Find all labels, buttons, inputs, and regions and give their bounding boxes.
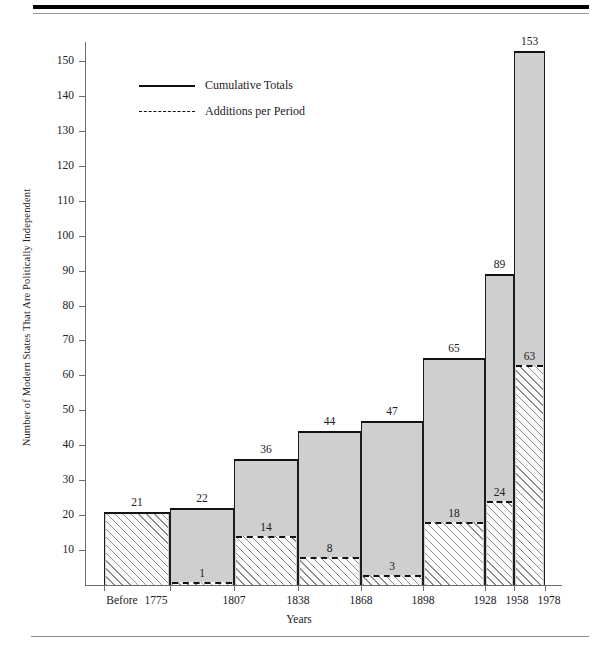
top-rule-thick <box>33 5 589 9</box>
y-tick-label-120: 120 <box>41 160 74 172</box>
y-tick-50 <box>79 410 86 411</box>
bar-addition-5 <box>425 522 484 585</box>
x-axis-title: Years <box>0 613 598 625</box>
x-tick-label-1978: 1978 <box>509 594 589 607</box>
y-tick-20 <box>79 515 86 516</box>
y-tick-label-text: 50 <box>44 404 74 416</box>
y-tick-label-20: 20 <box>41 509 74 521</box>
y-tick-90 <box>79 271 86 272</box>
x-tick-7 <box>514 585 515 591</box>
y-tick-label-text: 20 <box>44 509 74 521</box>
x-tick-0 <box>104 585 105 591</box>
y-tick-label-text: 130 <box>44 125 74 137</box>
y-tick-label-60: 60 <box>41 369 74 381</box>
legend-label: Additions per Period <box>205 104 305 119</box>
y-tick-110 <box>79 201 86 202</box>
y-tick-60 <box>79 375 86 376</box>
x-tick-2 <box>234 585 235 591</box>
addition-dashed-line-1 <box>172 582 233 584</box>
y-tick-70 <box>79 340 86 341</box>
y-tick-label-40: 40 <box>41 439 74 451</box>
y-tick-label-text: 90 <box>44 265 74 277</box>
addition-dashed-line-4 <box>363 575 422 577</box>
y-tick-label-80: 80 <box>41 300 74 312</box>
bar-addition-7 <box>516 365 544 585</box>
legend-swatch-solid-icon <box>139 85 195 87</box>
addition-dashed-line-6 <box>487 501 513 503</box>
x-tick-3 <box>298 585 299 591</box>
y-tick-80 <box>79 306 86 307</box>
bottom-rule <box>31 636 589 637</box>
addition-label-7: 63 <box>494 350 565 362</box>
y-tick-30 <box>79 480 86 481</box>
y-tick-label-text: 70 <box>44 334 74 346</box>
y-tick-130 <box>79 131 86 132</box>
y-tick-label-text: 30 <box>44 474 74 486</box>
legend-label: Cumulative Totals <box>205 78 293 93</box>
y-tick-label-150: 150 <box>41 55 74 67</box>
x-tick-4 <box>361 585 362 591</box>
legend-item-solid: Cumulative Totals <box>139 76 339 102</box>
y-tick-120 <box>79 166 86 167</box>
y-tick-label-10: 10 <box>41 544 74 556</box>
y-tick-label-text: 60 <box>44 369 74 381</box>
y-tick-label-text: 10 <box>44 544 74 556</box>
y-tick-label-text: 100 <box>44 230 74 242</box>
addition-dashed-line-2 <box>236 536 297 538</box>
x-tick-6 <box>485 585 486 591</box>
y-tick-label-100: 100 <box>41 230 74 242</box>
y-tick-label-30: 30 <box>41 474 74 486</box>
y-tick-label-text: 40 <box>44 439 74 451</box>
y-axis-title: Number of Modern States That Are Politic… <box>21 118 32 518</box>
bar-addition-6 <box>487 501 513 585</box>
bar-total-label-7: 153 <box>494 35 565 47</box>
y-tick-label-130: 130 <box>41 125 74 137</box>
y-tick-10 <box>79 550 86 551</box>
x-tick-8 <box>545 585 546 591</box>
y-tick-label-90: 90 <box>41 265 74 277</box>
x-tick-5 <box>423 585 424 591</box>
y-tick-label-text: 140 <box>44 90 74 102</box>
x-tick-label-1775: 1775 <box>116 594 196 607</box>
legend-swatch-dashed-icon <box>139 111 195 112</box>
top-rule-thin <box>33 13 589 14</box>
y-tick-40 <box>79 445 86 446</box>
x-tick-1 <box>170 585 171 591</box>
y-tick-label-text: 150 <box>44 55 74 67</box>
y-tick-label-text: 110 <box>44 195 74 207</box>
y-tick-150 <box>79 61 86 62</box>
chart-figure: 102030405060708090100110120130140150 Num… <box>0 0 598 649</box>
chart-legend: Cumulative TotalsAdditions per Period <box>139 76 339 128</box>
y-tick-label-text: 80 <box>44 300 74 312</box>
legend-item-dashed: Additions per Period <box>139 102 339 128</box>
y-tick-label-text: 120 <box>44 160 74 172</box>
y-tick-label-50: 50 <box>41 404 74 416</box>
y-tick-label-140: 140 <box>41 90 74 102</box>
y-tick-100 <box>79 236 86 237</box>
addition-dashed-line-7 <box>516 365 544 367</box>
addition-dashed-line-5 <box>425 522 484 524</box>
x-axis-line <box>85 585 562 586</box>
y-tick-label-70: 70 <box>41 334 74 346</box>
y-tick-label-110: 110 <box>41 195 74 207</box>
y-tick-140 <box>79 96 86 97</box>
